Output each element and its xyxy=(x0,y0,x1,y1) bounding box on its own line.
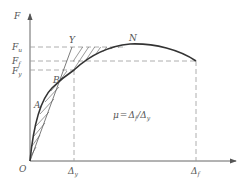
point-n-label: N xyxy=(128,33,138,43)
force-displacement-diagram: F O Fu Ff Fy Δy Δf A B Y N μ=Δf/Δy xyxy=(0,0,252,185)
upper-hatch xyxy=(66,45,126,72)
delta-f-label: Δf xyxy=(190,166,202,178)
y-axis-label: F xyxy=(13,11,21,21)
fu-label: Fu xyxy=(11,42,22,53)
reference-lines xyxy=(30,47,196,161)
fy-label: Fy xyxy=(11,66,22,78)
point-b-label: B xyxy=(52,75,60,85)
force-displacement-curve xyxy=(30,44,196,161)
origin-label: O xyxy=(19,164,27,174)
ductility-formula: μ=Δf/Δy xyxy=(113,110,151,122)
point-y-label: Y xyxy=(69,35,76,45)
delta-y-label: Δy xyxy=(67,166,79,178)
point-a-label: A xyxy=(33,100,41,110)
